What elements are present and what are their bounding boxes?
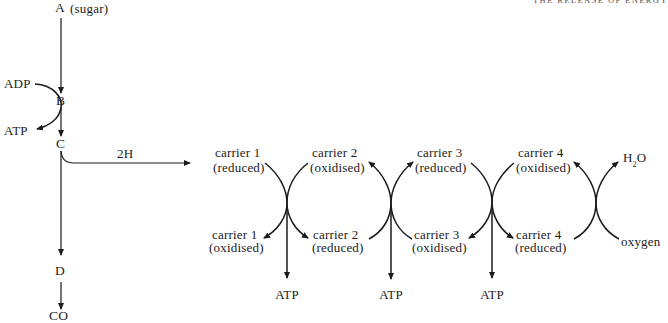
arc-carrier1-reduced-to-oxidised [264, 163, 287, 238]
label-adp: ADP [4, 77, 31, 90]
label-sugar: (sugar) [70, 2, 108, 15]
arc-oxygen-to-water [596, 162, 619, 239]
atp-output-1: ATP [273, 288, 301, 301]
bottom-carrier-3-state: (oxidised) [412, 241, 467, 254]
arc-carrier4-oxidised-to-reduced [492, 163, 514, 238]
top-carrier-3-state: (reduced) [415, 161, 467, 174]
arc-carrier2-oxidised-to-reduced [287, 163, 308, 238]
bottom-carrier-4-state: (reduced) [515, 241, 567, 254]
arc-carrier2-reduced-to-oxidised [369, 162, 391, 239]
label-step-d: D [55, 264, 65, 277]
label-step-b: B [56, 94, 65, 107]
atp-output-3: ATP [478, 288, 506, 301]
label-step-a: A [55, 1, 65, 14]
top-carrier-4-name: carrier 4 [518, 146, 563, 159]
bottom-carrier-1-state: (oxidised) [209, 241, 264, 254]
top-carrier-1-name: carrier 1 [215, 146, 260, 159]
top-carrier-2-name: carrier 2 [312, 146, 357, 159]
label-oxygen: oxygen [621, 235, 660, 248]
arc-carrier4-reduced-to-oxidised [574, 162, 596, 239]
label-step-c: C [56, 137, 65, 150]
top-carrier-2-state: (oxidised) [310, 161, 365, 174]
bottom-carrier-2-state: (reduced) [312, 241, 364, 254]
top-carrier-3-name: carrier 3 [417, 146, 462, 159]
top-carrier-1-state: (reduced) [213, 161, 265, 174]
atp-output-2: ATP [377, 288, 405, 301]
arc-carrier3-oxidised-to-reduced [391, 162, 413, 239]
label-water: H2O [623, 151, 646, 164]
label-co2: CO [49, 309, 68, 322]
label-atp-glycolysis: ATP [4, 124, 28, 137]
label-2h: 2H [117, 147, 133, 160]
top-carrier-4-state: (oxidised) [516, 161, 571, 174]
arc-carrier3-reduced-to-oxidised [469, 163, 492, 238]
